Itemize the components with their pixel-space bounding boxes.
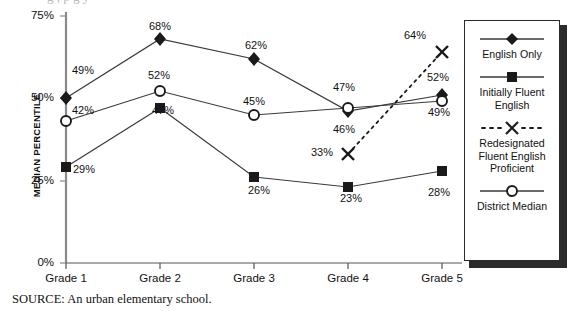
circle-marker-icon [437,96,447,106]
legend-entry-district-median[interactable]: District Median [465,183,559,212]
legend-entry-initially-fluent-english[interactable]: Initially Fluent English [465,69,559,111]
legend-label: Redesignated Fluent English Proficient [465,137,559,174]
x-marker-icon [465,120,559,136]
x-tick-label-grade-1: Grade 1 [21,272,111,284]
data-value-label: 49% [72,64,94,76]
x-marker-icon [342,148,354,160]
circle-marker-icon [343,103,353,113]
square-marker-icon [61,162,71,172]
data-value-label: 45% [243,95,265,107]
x-tick-label-grade-3: Grade 3 [209,272,299,284]
data-value-label: 42% [72,104,94,116]
data-value-label: 64% [404,29,426,41]
data-value-label: 49% [428,106,450,118]
legend-label: Initially Fluent English [465,86,559,111]
circle-marker-icon [249,110,259,120]
y-axis-title: MEDIAN PERCENTILE [31,66,42,226]
circle-marker-icon [465,183,559,199]
chart-figure: g , p g y [0,0,575,317]
square-marker-icon [343,182,353,192]
legend-entry-redesignated-fluent-english-proficient[interactable]: Redesignated Fluent English Proficient [465,120,559,174]
data-value-label: 47% [333,81,355,93]
diamond-marker-icon [154,32,166,46]
data-value-label: 33% [311,146,333,158]
chart-legend: English Only Initially Fluent English [464,20,560,261]
data-value-label: 46% [333,123,355,135]
y-tick-label: 75% [12,9,54,21]
x-tick-label-grade-4: Grade 4 [303,272,393,284]
data-value-label: 23% [340,192,362,204]
data-value-label: 68% [149,20,171,32]
data-value-label: 62% [245,39,267,51]
legend-label: District Median [465,200,559,212]
square-marker-icon [437,166,447,176]
diamond-marker-icon [465,31,559,47]
data-value-label: 52% [148,69,170,81]
series-redesignated-fluent-english-proficient [342,46,448,160]
data-value-label: 29% [73,163,95,175]
y-tick-label: 25% [12,174,54,186]
square-marker-icon [249,172,259,182]
x-marker-icon [436,46,448,58]
diamond-marker-icon [248,52,260,66]
circle-marker-icon [155,86,165,96]
circle-marker-icon [61,116,71,126]
square-marker-icon [465,69,559,85]
diamond-marker-icon [60,91,72,105]
legend-entry-english-only[interactable]: English Only [465,31,559,60]
source-note: SOURCE: An urban elementary school. [12,292,212,307]
data-value-label: 28% [428,186,450,198]
x-tick-label-grade-2: Grade 2 [115,272,205,284]
data-value-label: 26% [248,184,270,196]
data-value-label: 47% [152,104,174,116]
x-tick-label-grade-5: Grade 5 [397,272,487,284]
legend-label: English Only [465,48,559,60]
data-value-label: 52% [427,71,449,83]
y-tick-label: 0% [12,256,54,268]
y-tick-label: 50% [12,91,54,103]
